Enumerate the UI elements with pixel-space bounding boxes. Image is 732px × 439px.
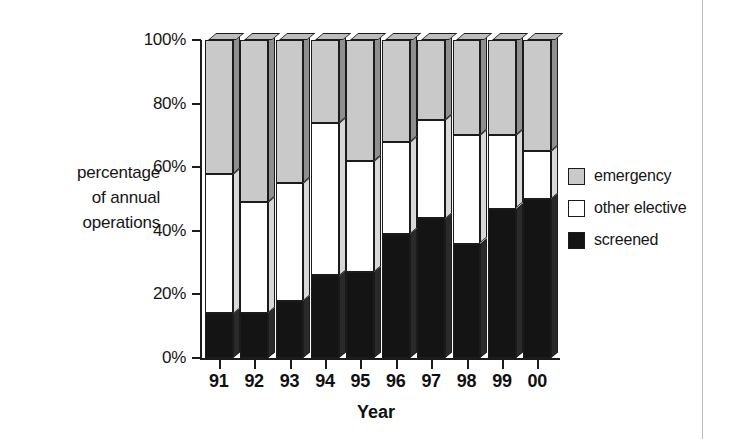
y-tick-20: 20% [192,293,201,295]
x-tick-95 [360,360,362,369]
bar-segment-screened [453,244,481,358]
bar-segment-screened [240,313,268,358]
bar-segment-screened [276,301,304,358]
bar-segment-side-emergency [410,34,417,142]
bar-segment-side-elective [551,145,558,199]
bar-segment-side-elective [480,130,487,244]
bar-segment-elective [346,161,374,272]
legend-item-emergency: emergency [568,160,718,192]
y-tick-0: 0% [192,357,201,359]
bar-segment-elective [488,135,516,208]
bar-segment-side-emergency [516,34,523,135]
bar-segment-screened [523,199,551,358]
bar-segment-side-screened [339,269,346,358]
y-tick-label: 0% [162,348,186,368]
bar-00 [523,40,551,358]
x-tick-91 [219,360,221,369]
y-tick-80: 80% [192,103,201,105]
x-tick-92 [254,360,256,369]
bar-segment-side-emergency [445,34,452,119]
x-tick-94 [325,360,327,369]
x-tick-label-92: 92 [234,371,274,392]
bar-segment-side-emergency [268,34,275,202]
x-tick-label-91: 91 [199,371,239,392]
y-axis-title-line-1: percentage [20,160,160,185]
legend-item-screened: screened [568,224,718,256]
bar-segment-emergency [523,40,551,151]
bar-segment-side-emergency [339,34,346,123]
x-tick-label-96: 96 [376,371,416,392]
legend-label-other-elective: other elective [594,199,686,217]
bar-segment-emergency [240,40,268,202]
bar-segment-screened [417,218,445,358]
bar-segment-elective [453,135,481,243]
bar-segment-side-emergency [233,34,240,173]
bar-segment-side-elective [233,168,240,314]
bar-segment-side-elective [339,117,346,275]
bar-91 [205,40,233,358]
bar-segment-elective [417,120,445,219]
bar-segment-screened [311,275,339,358]
bar-93 [276,40,304,358]
bar-segment-side-elective [268,196,275,313]
y-tick-label: 60% [153,157,186,177]
bar-94 [311,40,339,358]
x-tick-label-95: 95 [340,371,380,392]
legend-swatch-other-elective-icon [568,200,585,217]
bar-segment-emergency [276,40,304,183]
x-tick-label-94: 94 [305,371,345,392]
bar-96 [382,40,410,358]
y-axis-title-line-3: operations [20,210,160,235]
x-tick-96 [396,360,398,369]
bar-92 [240,40,268,358]
chart-figure: percentage of annual operations 0%20%40%… [0,0,732,439]
legend-swatch-emergency-icon [568,168,585,185]
bar-segment-side-elective [410,136,417,234]
y-tick-label: 40% [153,221,186,241]
x-tick-label-00: 00 [517,371,557,392]
x-tick-label-98: 98 [447,371,487,392]
x-tick-93 [290,360,292,369]
y-tick-40: 40% [192,230,201,232]
legend-item-other-elective: other elective [568,192,718,224]
legend-label-screened: screened [594,231,658,249]
bar-segment-side-screened [551,193,558,358]
bar-segment-elective [205,174,233,314]
bar-segment-elective [276,183,304,301]
bar-95 [346,40,374,358]
bar-segment-side-emergency [480,34,487,135]
bar-segment-side-emergency [303,34,310,183]
bar-segment-side-screened [303,295,310,358]
y-tick-label: 20% [153,284,186,304]
plot-area: 0%20%40%60%80%100% 91929394959697989900 … [192,30,560,370]
bar-segment-side-screened [233,308,240,358]
bar-segment-elective [523,151,551,199]
y-tick-60: 60% [192,166,201,168]
bar-segment-side-screened [480,238,487,358]
x-axis-title: Year [192,402,560,423]
bar-segment-side-emergency [551,34,558,151]
chart-legend: emergency other elective screened [568,160,718,256]
bar-segment-emergency [453,40,481,135]
bar-segment-emergency [488,40,516,135]
x-tick-label-97: 97 [411,371,451,392]
bar-97 [417,40,445,358]
legend-label-emergency: emergency [594,167,671,185]
bar-segment-side-elective [374,155,381,272]
bar-segment-elective [382,142,410,234]
x-tick-label-93: 93 [270,371,310,392]
y-tick-100: 100% [192,39,201,41]
bar-segment-side-screened [374,266,381,358]
bar-99 [488,40,516,358]
bar-segment-side-elective [516,130,523,209]
bar-98 [453,40,481,358]
y-tick-label: 80% [153,94,186,114]
bar-segment-screened [488,209,516,358]
x-tick-97 [431,360,433,369]
bar-segment-screened [205,313,233,358]
legend-swatch-screened-icon [568,232,585,249]
bar-segment-emergency [382,40,410,142]
bar-segment-screened [346,272,374,358]
bar-segment-side-elective [303,177,310,301]
bar-segment-emergency [205,40,233,174]
